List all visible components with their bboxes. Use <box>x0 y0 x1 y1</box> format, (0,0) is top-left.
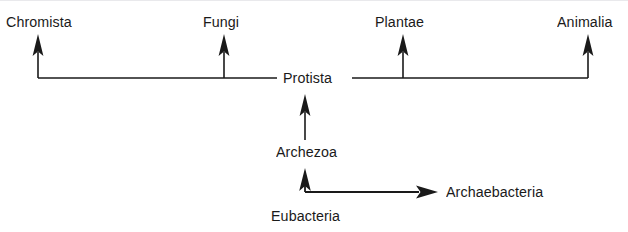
node-label-chromista: Chromista <box>6 13 72 30</box>
node-label-fungi: Fungi <box>203 13 239 30</box>
node-label-animalia: Animalia <box>557 13 612 30</box>
node-label-plantae: Plantae <box>375 13 424 30</box>
node-label-protista: Protista <box>283 69 332 86</box>
classification-diagram: Chromista Fungi Plantae Animalia Protist… <box>0 0 628 232</box>
arrowhead-archaebacteria <box>416 186 438 199</box>
node-label-archaebacteria: Archaebacteria <box>446 183 543 200</box>
node-label-archezoa: Archezoa <box>276 143 337 160</box>
node-label-eubacteria: Eubacteria <box>271 207 340 224</box>
